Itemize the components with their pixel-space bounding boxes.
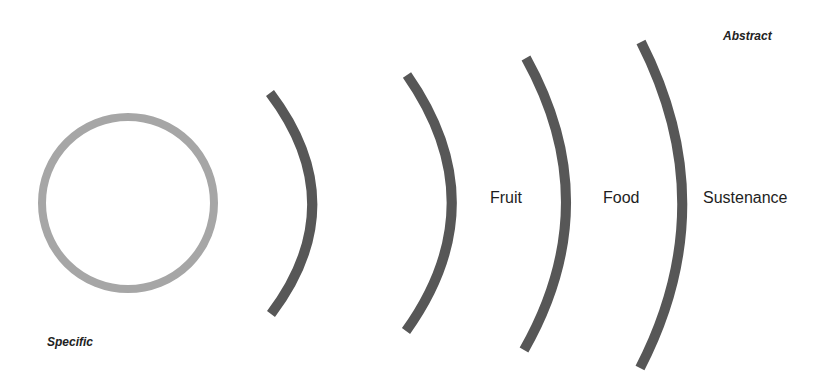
arc-level-2 (406, 75, 452, 331)
abstraction-diagram: Fruit Food Sustenance Abstract Specific (0, 0, 835, 386)
label-specific: Specific (47, 335, 93, 349)
label-sustenance: Sustenance (703, 189, 788, 207)
label-food: Food (603, 189, 639, 207)
arc-level-4 (640, 42, 682, 368)
specific-circle (42, 117, 214, 289)
arc-level-1 (270, 93, 312, 314)
label-fruit: Fruit (490, 189, 522, 207)
arc-level-3 (524, 58, 566, 350)
label-abstract: Abstract (723, 29, 772, 43)
